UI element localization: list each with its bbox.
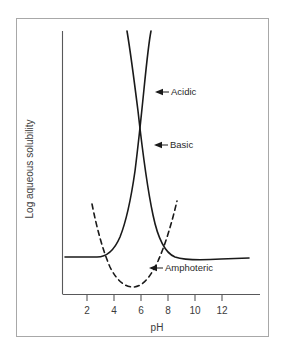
curve-solid-left [65,31,151,257]
x-axis-ticks [87,295,222,302]
annotation-label-acidic: Acidic [171,86,197,97]
annotation-label-basic: Basic [170,139,193,150]
annotation-label-amphoteric: Amphoteric [165,262,213,273]
annotation-amphoteric: Amphoteric [149,262,213,273]
x-axis-tick-labels: 2 4 6 8 10 12 [84,305,228,316]
annotation-basic: Basic [154,139,193,150]
solubility-ph-chart: 2 4 6 8 10 12 pH Log aqueous solubility … [17,19,268,336]
x-axis-title: pH [151,322,164,333]
acidic-arrow-icon [155,89,163,95]
annotation-acidic: Acidic [155,86,197,97]
y-axis-title: Log aqueous solubility [24,120,35,219]
amphoteric-arrow-icon [149,265,157,271]
x-tick-label: 8 [165,305,171,316]
basic-arrow-icon [154,142,162,148]
x-tick-label: 4 [111,305,117,316]
figure-frame: 2 4 6 8 10 12 pH Log aqueous solubility … [16,18,269,337]
curve-amphoteric [92,201,177,287]
x-tick-label: 6 [138,305,144,316]
x-tick-label: 2 [84,305,90,316]
x-tick-label: 10 [189,305,201,316]
x-tick-label: 12 [216,305,228,316]
